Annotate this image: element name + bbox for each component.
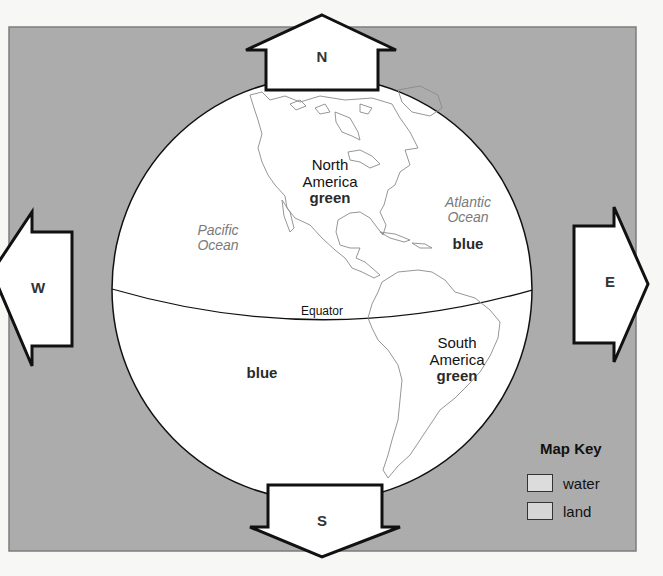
- pacific-ocean-label: Pacific Ocean: [188, 223, 248, 254]
- map-key-land: land: [527, 502, 591, 520]
- pacific-line1: Pacific: [188, 223, 248, 238]
- water-swatch: [527, 474, 553, 492]
- map-key-water: water: [527, 474, 600, 492]
- south-label: S: [310, 513, 334, 530]
- atlantic-water-color: blue: [448, 236, 488, 253]
- south-america-label: South America green: [417, 335, 497, 385]
- atlantic-line1: Atlantic: [438, 195, 498, 210]
- north-america-color: green: [290, 190, 370, 207]
- atlantic-line2: Ocean: [438, 210, 498, 225]
- north-america-label: North America green: [290, 157, 370, 207]
- pacific-line2: Ocean: [188, 238, 248, 253]
- north-label: N: [310, 49, 334, 66]
- west-label: W: [26, 280, 50, 297]
- equator-label: Equator: [292, 305, 352, 318]
- south-america-name-line1: South: [417, 335, 497, 352]
- land-swatch: [527, 502, 553, 520]
- land-key-label: land: [563, 503, 591, 520]
- water-key-label: water: [563, 475, 600, 492]
- atlantic-ocean-label: Atlantic Ocean: [438, 195, 498, 226]
- map-key-title: Map Key: [540, 441, 610, 458]
- east-label: E: [598, 274, 622, 291]
- pacific-water-color: blue: [242, 365, 282, 382]
- north-america-name-line1: North: [290, 157, 370, 174]
- south-america-color: green: [417, 368, 497, 385]
- globe: [112, 77, 532, 501]
- map-figure: N S W E North America green South Americ…: [0, 0, 663, 576]
- north-america-name-line2: America: [290, 174, 370, 191]
- south-america-name-line2: America: [417, 352, 497, 369]
